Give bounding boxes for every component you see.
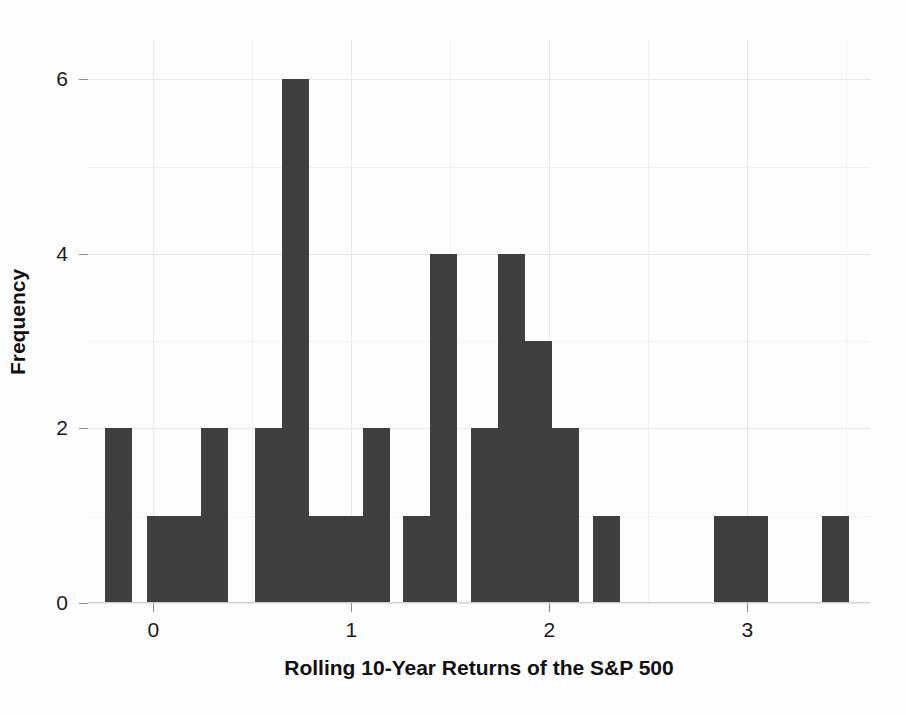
histogram-bar <box>255 428 282 603</box>
y-axis-label: Frequency <box>6 268 30 374</box>
histogram-bar <box>309 516 336 603</box>
x-tick-label: 0 <box>147 618 159 642</box>
histogram-bar <box>593 516 620 603</box>
x-tick-label: 1 <box>345 618 357 642</box>
x-axis-label: Rolling 10-Year Returns of the S&P 500 <box>88 656 870 680</box>
y-tick-label: 2 <box>56 416 68 440</box>
histogram-bar <box>105 428 132 603</box>
gridline-horizontal <box>88 603 870 604</box>
x-tick-mark <box>549 603 550 612</box>
y-tick-mark <box>79 428 88 429</box>
x-axis-line <box>88 602 870 603</box>
y-tick-label: 0 <box>56 591 68 615</box>
histogram-bar <box>403 516 430 603</box>
histogram-bar <box>741 516 768 603</box>
histogram-bar <box>430 254 457 603</box>
plot-area: 0123 0246 Rolling 10-Year Returns of the… <box>88 40 870 603</box>
histogram-bar <box>147 516 174 603</box>
histogram-bar <box>471 428 498 603</box>
x-tick-label: 2 <box>543 618 555 642</box>
histogram-bars <box>88 40 870 603</box>
histogram-bar <box>174 516 201 603</box>
x-tick-mark <box>747 603 748 612</box>
y-tick-mark <box>79 79 88 80</box>
histogram-bar <box>363 428 390 603</box>
histogram-bar <box>201 428 228 603</box>
histogram-figure: 0123 0246 Rolling 10-Year Returns of the… <box>0 0 906 715</box>
y-tick-mark <box>79 603 88 604</box>
histogram-bar <box>336 516 363 603</box>
y-tick-label: 4 <box>56 242 68 266</box>
histogram-bar <box>525 341 552 603</box>
histogram-bar <box>498 254 525 603</box>
histogram-bar <box>552 428 579 603</box>
y-tick-mark <box>79 254 88 255</box>
x-tick-mark <box>351 603 352 612</box>
histogram-bar <box>714 516 741 603</box>
histogram-bar <box>822 516 849 603</box>
x-tick-mark <box>153 603 154 612</box>
y-tick-label: 6 <box>56 67 68 91</box>
x-tick-label: 3 <box>741 618 753 642</box>
histogram-bar <box>282 79 309 603</box>
